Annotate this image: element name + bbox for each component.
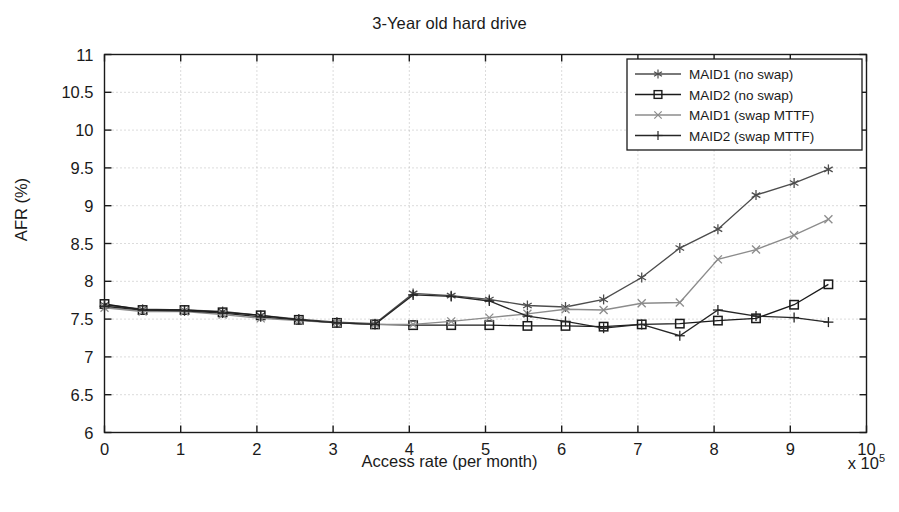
y-tick-label: 9 [84, 197, 93, 215]
legend-label: MAID1 (swap MTTF) [689, 108, 814, 123]
legend-label: MAID2 (no swap) [689, 88, 793, 103]
x-tick-label: 9 [786, 440, 795, 458]
y-tick-label: 7.5 [71, 310, 94, 328]
chart-legend: MAID1 (no swap)MAID2 (no swap)MAID1 (swa… [627, 59, 862, 150]
x-tick-label: 8 [710, 440, 719, 458]
data-series [100, 164, 833, 328]
y-tick-label: 6.5 [71, 386, 94, 404]
y-tick-label: 10.5 [61, 83, 93, 101]
x-tick-label: 3 [329, 440, 338, 458]
x-tick-label: 0 [100, 440, 109, 458]
x-tick-label: 10 [857, 440, 875, 458]
y-tick-label: 9.5 [71, 159, 94, 177]
data-series-group [100, 164, 834, 340]
y-tick-label: 7 [84, 348, 93, 366]
legend-label: MAID1 (no swap) [689, 67, 793, 82]
x-tick-label: 6 [557, 440, 566, 458]
data-series [100, 280, 832, 331]
x-tick-label: 1 [176, 440, 185, 458]
y-tick-label: 6 [84, 424, 93, 442]
x-tick-label: 4 [405, 440, 414, 458]
y-tick-label: 11 [76, 46, 93, 64]
y-tick-label: 8.5 [71, 235, 94, 253]
x-tick-label: 2 [252, 440, 261, 458]
x-tick-label: 5 [481, 440, 490, 458]
legend-label: MAID2 (swap MTTF) [689, 129, 814, 144]
x-tick-label: 7 [633, 440, 642, 458]
plot-area: 66.577.588.599.51010.511 012345678910 MA… [0, 0, 899, 512]
chart-figure: 3-Year old hard drive AFR (%) Access rat… [0, 0, 899, 512]
y-tick-label: 8 [84, 272, 93, 290]
y-tick-label: 10 [75, 121, 93, 139]
